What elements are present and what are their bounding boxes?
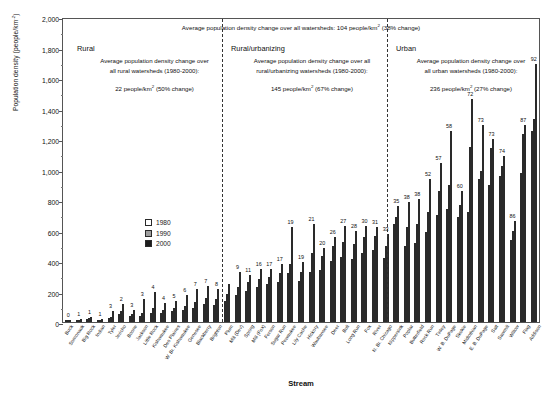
bar-2000 [133,310,135,322]
bar-2000 [503,156,505,322]
y-axis-tick-label: 1,400 [42,107,59,114]
bar-group-value-label: 52 [425,171,431,177]
legend-item-1980: 1980 [145,219,171,226]
bar-group-value-label: 35 [393,198,399,204]
bar-group-value-label: 16 [256,261,262,267]
bar-group-value-label: 9 [236,264,239,270]
bar-group-value-label: 1 [88,309,91,315]
bar-group-value-label: 19 [298,254,304,260]
bar-2000 [514,221,516,322]
bar-2000 [270,269,272,322]
bar-group-value-label: 4 [151,284,154,290]
bar-2000 [112,311,114,322]
bar-group-value-label: 3 [130,302,133,308]
bar-group-value-label: 4 [162,295,165,301]
y-axis-tick-label: 400 [48,260,59,267]
y-axis-tick-label: 800 [48,199,59,206]
annotation-rural-line2: all rural watersheds (1980-2000): [77,66,232,75]
bar-group-value-label: 60 [457,183,463,189]
legend-label-2000: 2000 [156,240,171,247]
bar-2000 [482,125,484,322]
y-axis-tick-label: 200 [48,290,59,297]
y-axis-tick-label: 2,000 [42,16,59,23]
bar-2000 [524,125,526,322]
bar-2000 [313,224,315,322]
y-axis-tick-label: 1,200 [42,138,59,145]
bar-group-value-label: 6 [183,287,186,293]
bar-group-value-label: 57 [436,155,442,161]
bar-group-value-label: 1 [99,311,102,317]
bar-group-value-label: 0 [67,312,70,318]
bar-2000 [291,227,293,322]
bar-group-value-label: 74 [499,148,505,154]
annotation-rural-urbanizing-line1: Average population density change over a… [231,56,393,65]
annotation-rural-urbanizing: Rural/urbanizing Average population dens… [231,43,393,94]
bar-group-value-label: 3 [141,291,144,297]
annotation-urban-heading: Urban [396,43,546,54]
plot-area: Population density (people/km-2) 0200400… [62,18,540,323]
bar-2000 [196,289,198,322]
bar-group: 0 [63,19,74,322]
annotation-urban-line2: all urban watersheds (1980-2000): [396,66,546,75]
y-axis-tick-label: 600 [48,229,59,236]
annotation-urban-value: 236 people/km2 (27% change) [396,84,546,93]
annotation-urban-line1: Average population density change over [396,56,546,65]
annotation-overall: Average population density change over a… [182,23,420,31]
bar-group-value-label: 17 [277,256,283,262]
legend-item-2000: 2000 [145,240,171,247]
bar-2000 [207,286,209,322]
bar-group-value-label: 1 [77,311,80,317]
bar-2000 [408,202,410,322]
annotation-rural-line1: Average population density change over [77,56,232,65]
annotation-urban: Urban Average population density change … [396,43,546,94]
bar-2000 [397,206,399,322]
bar-2000 [323,248,325,322]
bar-2000 [260,269,262,322]
bar-2000 [355,231,357,323]
legend-swatch-2000 [145,240,152,247]
bar-2000 [535,64,537,322]
bar-group-value-label: 58 [446,123,452,129]
x-axis-tick-label: Bull [342,324,351,334]
x-axis-tick-label: Deer [330,324,340,336]
bar-group-value-label: 2 [120,296,123,302]
bar-2000 [90,317,92,322]
x-axis-tick-label: Flag [522,324,531,335]
bar-2000 [164,303,166,322]
bar-group-value-label: 8 [215,281,218,287]
bar-group-value-label: 87 [520,117,526,123]
legend-item-1990: 1990 [145,230,171,237]
legend-label-1980: 1980 [156,219,171,226]
bar-2000 [69,320,71,322]
bar-2000 [122,304,124,322]
x-axis-tick-label: Fox [363,324,372,334]
chart-figure: Population density (people/km-2) 0200400… [0,0,556,395]
bar-2000 [418,199,420,322]
legend-label-1990: 1990 [156,230,171,237]
bar-group-value-label: 30 [361,218,367,224]
bar-2000 [492,139,494,322]
bar-2000 [440,163,442,322]
bar-2000 [80,319,82,322]
bar-group-value-label: 86 [510,213,516,219]
bar-group-value-label: 28 [351,223,357,229]
bar-2000 [101,319,103,322]
bar-group-value-label: 31 [372,219,378,225]
bar-group-value-label: 21 [309,216,315,222]
annotation-rural-urbanizing-line2: rural/urbanizing watersheds (1980-2000): [231,66,393,75]
bar-group-value-label: 38 [404,194,410,200]
x-axis-tick-labels: BuckSomonaukBig RockIndianTylerJerichoBo… [62,324,540,376]
bar-2000 [429,179,431,322]
legend-swatch-1990 [145,230,152,237]
bar-2000 [175,301,177,322]
bar-group-value-label: 7 [194,281,197,287]
annotation-rural: Rural Average population density change … [77,43,232,94]
bar-2000 [334,237,336,322]
annotation-rural-urbanizing-heading: Rural/urbanizing [231,43,393,54]
annotation-rural-value: 22 people/km2 (50% change) [77,84,232,93]
bar-group-value-label: 19 [287,219,293,225]
x-axis-tick-label: Salt [490,324,499,334]
bar-group-value-label: 3 [109,303,112,309]
bar-group-value-label: 17 [266,261,272,267]
bar-group-value-label: 27 [340,218,346,224]
